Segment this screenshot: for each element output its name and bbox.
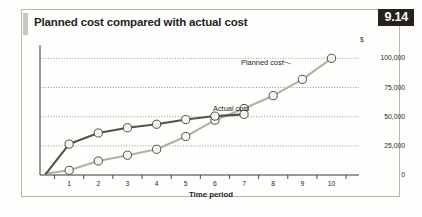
actual-cost-annotation: Actual cost [213,104,249,113]
y-tick-label: 25,000 [363,142,405,149]
y-tick-label: 100,000 [363,54,405,61]
x-tick-label: 10 [322,180,342,187]
gridlines-group [40,58,359,146]
data-point-marker [298,75,306,83]
planned-cost-annotation: Planned cost [241,58,284,67]
x-tick-label: 9 [292,180,312,187]
annotation-leaders-group [283,62,291,65]
data-point-marker [123,151,131,159]
x-tick-label: 7 [234,180,254,187]
data-point-marker [211,112,219,120]
y-tick-label: 75,000 [363,84,405,91]
data-point-marker [182,132,190,140]
x-tick-label: 4 [147,180,167,187]
axis-lines-group [40,45,359,175]
x-tick-label: 3 [117,180,137,187]
data-point-marker [65,166,73,174]
series-markers-group [65,54,336,174]
y-tick-label: 0 [363,171,405,178]
x-tick-label: 1 [59,180,79,187]
x-tick-label: 8 [263,180,283,187]
data-point-marker [153,120,161,128]
data-point-marker [153,145,161,153]
x-tick-marks-group [55,175,347,179]
x-tick-label: 6 [205,180,225,187]
data-point-marker [94,157,102,165]
data-point-marker [269,92,277,100]
x-tick-label: 2 [88,180,108,187]
x-axis-title: Time period [0,190,422,199]
figure-container: Planned cost compared with actual cost 9… [0,0,422,217]
data-point-marker [327,54,335,62]
data-point-marker [94,129,102,137]
data-point-marker [123,124,131,132]
y-tick-label: 50,000 [363,113,405,120]
x-tick-label: 5 [176,180,196,187]
data-point-marker [182,115,190,123]
data-point-marker [65,140,73,148]
